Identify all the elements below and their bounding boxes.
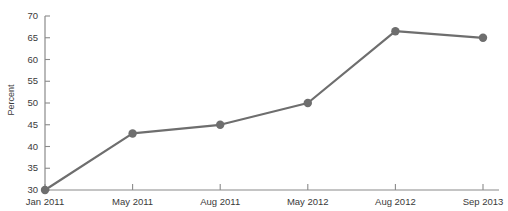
data-point-marker bbox=[391, 27, 399, 35]
x-tick-label: Sep 2013 bbox=[438, 196, 508, 207]
x-tick-label: Aug 2011 bbox=[175, 196, 265, 207]
x-tick-label: Jan 2011 bbox=[0, 196, 90, 207]
series-markers bbox=[41, 27, 487, 194]
x-axis-ticks bbox=[45, 184, 483, 190]
series-line bbox=[45, 31, 483, 190]
data-point-marker bbox=[304, 99, 312, 107]
y-axis-ticks bbox=[45, 16, 50, 190]
data-point-marker bbox=[479, 34, 487, 42]
x-tick-label: May 2012 bbox=[263, 196, 353, 207]
data-point-marker bbox=[41, 186, 49, 194]
data-point-marker bbox=[128, 129, 136, 137]
x-tick-label: May 2011 bbox=[88, 196, 178, 207]
data-point-marker bbox=[216, 121, 224, 129]
x-tick-label: Aug 2012 bbox=[350, 196, 440, 207]
axes-group bbox=[45, 16, 499, 190]
